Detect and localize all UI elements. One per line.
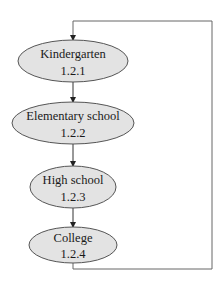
node-label: High school — [43, 173, 104, 187]
node-elementary-school: Elementary school 1.2.2 — [12, 102, 134, 144]
node-college: College 1.2.4 — [29, 227, 117, 263]
node-kindergarten: Kindergarten 1.2.1 — [18, 40, 128, 82]
flowchart-canvas: Kindergarten 1.2.1 Elementary school 1.2… — [0, 0, 223, 301]
node-high-school: High school 1.2.3 — [30, 166, 116, 208]
node-code: 1.2.3 — [61, 190, 86, 204]
node-label: Kindergarten — [40, 47, 106, 61]
node-label: Elementary school — [26, 109, 120, 123]
node-code: 1.2.1 — [61, 64, 86, 78]
node-code: 1.2.4 — [61, 247, 87, 261]
node-label: College — [54, 231, 93, 245]
node-code: 1.2.2 — [61, 126, 86, 140]
